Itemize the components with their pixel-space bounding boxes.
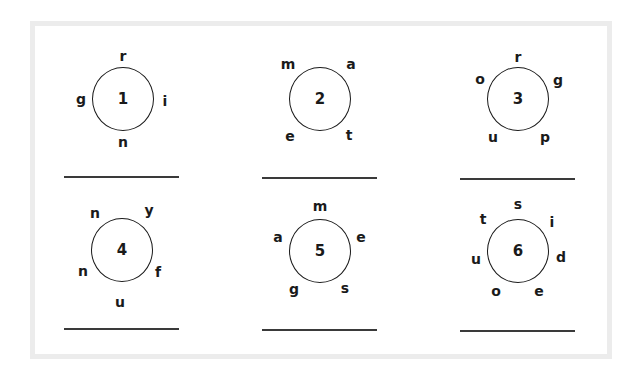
puzzle-number: 3 bbox=[498, 88, 538, 110]
puzzle-letter: m bbox=[310, 195, 330, 217]
puzzle-letter: a bbox=[341, 53, 361, 75]
puzzle-letter: o bbox=[470, 68, 490, 90]
puzzle-letter: s bbox=[508, 193, 528, 215]
answer-line[interactable] bbox=[460, 178, 575, 180]
puzzle-letter: n bbox=[113, 131, 133, 153]
answer-line[interactable] bbox=[460, 330, 575, 332]
answer-line[interactable] bbox=[262, 329, 377, 331]
puzzle-letter: u bbox=[110, 291, 130, 313]
puzzle-letter: g bbox=[71, 88, 91, 110]
puzzle-letter: s bbox=[335, 277, 355, 299]
puzzle-letter: e bbox=[351, 226, 371, 248]
puzzle-number: 6 bbox=[498, 240, 538, 262]
puzzle-letter: n bbox=[85, 202, 105, 224]
puzzle-number: 4 bbox=[102, 239, 142, 261]
puzzle-letter: o bbox=[486, 280, 506, 302]
answer-line[interactable] bbox=[262, 177, 377, 179]
puzzle-letter: g bbox=[548, 69, 568, 91]
puzzle-letter: e bbox=[529, 280, 549, 302]
puzzle-letter: u bbox=[466, 248, 486, 270]
puzzle-letter: i bbox=[155, 90, 175, 112]
puzzle-letter: e bbox=[280, 125, 300, 147]
puzzle-letter: r bbox=[508, 46, 528, 68]
answer-line[interactable] bbox=[64, 176, 179, 178]
puzzle-number: 5 bbox=[300, 240, 340, 262]
puzzle-letter: p bbox=[535, 126, 555, 148]
puzzle-letter: m bbox=[278, 53, 298, 75]
puzzle-number: 1 bbox=[103, 88, 143, 110]
puzzle-letter: g bbox=[284, 278, 304, 300]
answer-line[interactable] bbox=[64, 328, 179, 330]
puzzle-letter: a bbox=[268, 226, 288, 248]
puzzle-letter: r bbox=[113, 45, 133, 67]
puzzle-letter: y bbox=[139, 199, 159, 221]
puzzle-letter: n bbox=[73, 260, 93, 282]
puzzle-letter: d bbox=[551, 246, 571, 268]
puzzle-letter: u bbox=[483, 126, 503, 148]
puzzle-letter: i bbox=[542, 211, 562, 233]
puzzle-letter: t bbox=[473, 208, 493, 230]
puzzle-letter: t bbox=[339, 124, 359, 146]
puzzle-letter: f bbox=[148, 261, 168, 283]
puzzle-number: 2 bbox=[300, 88, 340, 110]
